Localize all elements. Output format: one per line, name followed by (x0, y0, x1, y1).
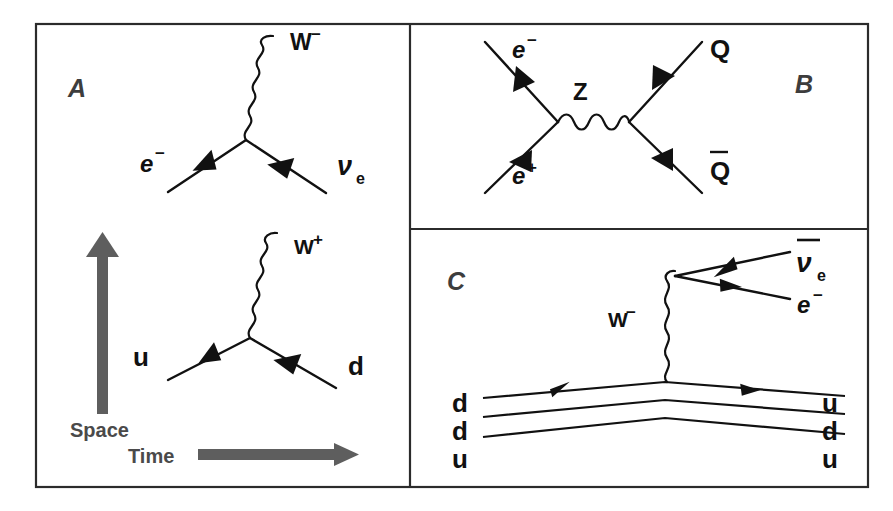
feynman-diagram-figure: A W − e − ν e (0, 0, 893, 511)
panel-b-label: B (795, 70, 813, 98)
w-minus-boson-wavy-line-c (665, 271, 675, 382)
w-minus-boson-wavy-line (245, 36, 273, 140)
electron-arrow-icon-c (718, 279, 742, 294)
quark-outgoing-arrow-icon (740, 384, 760, 397)
antiquark-label-group-b: Q (710, 152, 730, 186)
time-axis: Time (128, 443, 359, 467)
antiquark-label-b: Q (710, 156, 730, 186)
quark-line-top (483, 382, 845, 398)
electron-superscript: − (155, 144, 165, 163)
electron-label: e (140, 150, 153, 177)
antiquark-outgoing-arrow-icon-b (651, 148, 673, 171)
antineutrino-subscript-c: e (817, 267, 826, 284)
initial-quark-label-1: d (452, 416, 468, 446)
quark-label-b: Q (710, 34, 730, 64)
w-plus-superscript: + (313, 230, 323, 249)
up-quark-incoming-arrow-icon (195, 342, 221, 365)
panel-b: B Z e − e + Q Q (485, 31, 813, 193)
quark-line-bottom (483, 418, 845, 437)
electron-incoming-arrow-icon (191, 149, 216, 170)
electron-label-c: e (797, 291, 810, 318)
space-axis-arrowhead-icon (86, 232, 119, 257)
positron-superscript-b: + (527, 158, 537, 177)
diagram-up-down: W + u d (133, 230, 364, 388)
figure-canvas: A W − e − ν e (0, 0, 893, 511)
neutrino-label: ν (337, 151, 352, 181)
time-axis-arrowhead-icon (334, 443, 359, 466)
quark-outgoing-arrow-icon-b (652, 65, 675, 90)
final-quark-label-1: d (822, 416, 838, 446)
w-minus-label-c: W (608, 308, 628, 331)
initial-quark-label-2: u (452, 444, 468, 474)
panel-a: A W − e − ν e (67, 25, 365, 467)
initial-quark-label-0: d (452, 388, 468, 418)
electron-incoming-arrow-icon-b (513, 66, 535, 92)
down-quark-label: d (348, 351, 364, 381)
space-axis-label: Space (70, 419, 129, 441)
z-boson-label: Z (573, 78, 588, 105)
z-boson-wavy-line (558, 115, 629, 130)
up-quark-label: u (133, 342, 149, 372)
quark-line-middle (483, 400, 845, 417)
quark-outgoing-line-b (629, 42, 702, 122)
antineutrino-label-c: ν (796, 247, 812, 278)
final-quark-label-0: u (822, 388, 838, 418)
down-quark-outgoing-arrow-icon (271, 345, 302, 375)
w-minus-label: W (290, 29, 312, 55)
electron-superscript-b: − (527, 31, 537, 50)
electron-label-b: e (512, 36, 525, 63)
time-axis-label: Time (128, 445, 174, 467)
w-minus-superscript-c: − (626, 303, 636, 322)
panel-a-label: A (67, 74, 86, 102)
w-plus-boson-wavy-line (249, 233, 277, 338)
panel-c-label: C (447, 267, 466, 295)
time-axis-shaft (198, 449, 339, 460)
space-axis-shaft (97, 252, 108, 414)
panel-c: C W − ν (447, 240, 845, 474)
w-minus-superscript: − (311, 25, 321, 44)
final-quark-label-2: u (822, 444, 838, 474)
positron-label-b: e (512, 162, 525, 189)
w-plus-label: W (294, 235, 314, 258)
antineutrino-label-group-c: ν e (796, 240, 826, 284)
diagram-electron-neutrino: W − e − ν e (140, 25, 365, 193)
quark-lines-group (483, 382, 845, 437)
neutrino-outgoing-arrow-icon (265, 149, 296, 179)
neutrino-subscript: e (356, 170, 365, 187)
space-axis: Space (70, 232, 129, 441)
electron-superscript-c: − (813, 286, 823, 305)
